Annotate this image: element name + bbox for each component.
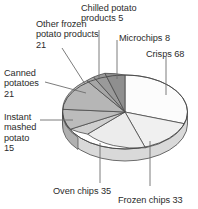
label-microchips: Microchips 8 (119, 33, 197, 43)
leader-line-other-frozen-potato-products (62, 48, 85, 84)
label-chilled-potato-products: Chilled potato products 5 (81, 3, 163, 24)
label-instant-mashed-potato: Instant mashed potato 15 (4, 112, 52, 154)
label-canned-potatoes: Canned potatoes 21 (4, 68, 64, 99)
pie-slices (63, 73, 188, 148)
pie-chart: Other frozen potato products 21 Chilled … (0, 0, 198, 209)
label-crisps: Crisps 68 (146, 49, 198, 59)
label-frozen-chips: Frozen chips 33 (118, 195, 198, 205)
